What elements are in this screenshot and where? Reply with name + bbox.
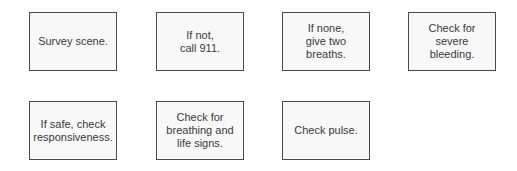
step-text: Check for breathing and life signs. [164,111,235,150]
step-box-give-breaths: If none, give two breaths. [282,12,370,71]
step-text: Check pulse. [292,124,360,137]
step-text: If not, call 911. [178,29,222,55]
step-text: Survey scene. [36,35,110,48]
step-box-check-bleeding: Check for severe bleeding. [408,12,496,71]
step-box-survey-scene: Survey scene. [29,12,117,71]
step-text: If none, give two breaths. [304,22,348,61]
step-box-check-responsiveness: If safe, check responsiveness. [29,101,117,160]
step-box-check-breathing: Check for breathing and life signs. [156,101,244,160]
step-text: Check for severe bleeding. [426,22,477,61]
step-text: If safe, check responsiveness. [31,118,115,144]
step-box-check-pulse: Check pulse. [282,101,370,160]
step-box-call-911: If not, call 911. [156,12,244,71]
